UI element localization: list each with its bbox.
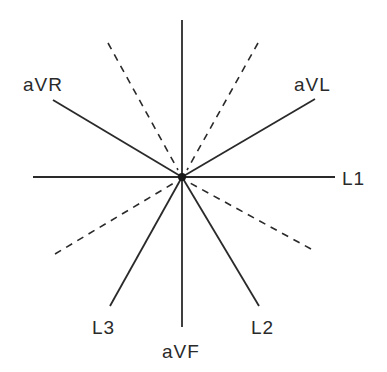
lead-label-avf: aVF <box>162 341 200 362</box>
center-point <box>178 173 186 181</box>
lead-axis-l3 <box>110 177 182 306</box>
dash-lower-right <box>190 183 311 249</box>
lead-axis-avr <box>53 100 182 177</box>
lead-label-avr: aVR <box>23 74 63 95</box>
lead-axis-avl <box>182 99 315 177</box>
lead-label-l1: L1 <box>342 168 365 189</box>
dash-lower-left <box>55 183 174 254</box>
lead-label-l2: L2 <box>251 317 274 338</box>
lead-axis-l2 <box>182 177 259 306</box>
lead-label-l3: L3 <box>92 317 115 338</box>
hexaxial-diagram: L1aVFaVRaVLL3L2 <box>0 0 387 372</box>
dash-upper-right <box>187 43 258 170</box>
dash-upper-left <box>108 43 178 170</box>
lead-label-avl: aVL <box>294 74 331 95</box>
